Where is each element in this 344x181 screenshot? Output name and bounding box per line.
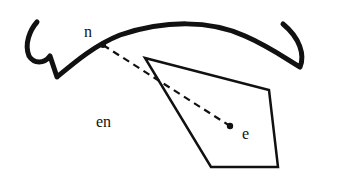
quadrilateral — [145, 58, 278, 167]
label-e: e — [242, 125, 249, 142]
dashed-segment-n-e — [103, 45, 230, 126]
label-n: n — [84, 23, 92, 40]
boundary-curve — [27, 22, 302, 77]
point-e — [227, 123, 233, 129]
label-en: en — [96, 113, 111, 130]
point-n — [100, 42, 106, 48]
diagram-canvas: n e en — [0, 0, 344, 181]
